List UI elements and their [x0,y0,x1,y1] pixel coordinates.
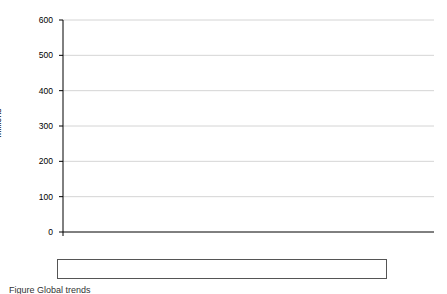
figure-container: Millions 0100200300400500600 Figure Glob… [0,0,447,294]
figure-caption: Figure Global trends [9,285,91,294]
y-axis-tick-label: 200 [27,156,53,166]
y-axis-tick-label: 500 [27,50,53,60]
y-axis-title: Millions [0,108,3,137]
y-axis-tick-label: 600 [27,15,53,25]
y-axis-ticks [59,20,63,232]
y-axis-tick-label: 100 [27,192,53,202]
gridlines [63,20,434,197]
chart-plot-area [0,0,447,252]
y-axis-tick-label: 0 [27,227,53,237]
y-axis-tick-label: 300 [27,121,53,131]
y-axis-tick-label: 400 [27,86,53,96]
line-chart: Millions 0100200300400500600 [0,0,447,252]
chart-legend [57,259,387,279]
